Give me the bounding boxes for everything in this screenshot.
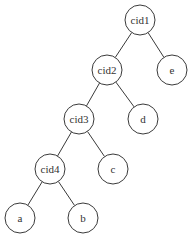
tree-node-e: e [157,55,187,85]
edge-cid2-cid3 [86,83,99,106]
node-label: cid4 [41,163,60,175]
tree-node-d: d [128,104,158,134]
tree-node-cid2: cid2 [92,55,122,85]
node-label: d [140,113,146,125]
edge-cid4-a [28,182,42,205]
tree-node-a: a [5,203,35,233]
node-label: cid1 [131,14,150,26]
tree-node-b: b [68,203,98,233]
edge-cid1-cid2 [115,33,131,58]
tree-node-c: c [98,154,128,184]
node-label: c [111,163,116,175]
node-label: cid2 [98,64,117,76]
node-label: cid3 [70,113,89,125]
edge-cid2-d [116,82,134,107]
node-label: b [80,212,86,224]
tree-node-cid4: cid4 [35,154,65,184]
edge-cid1-e [148,33,164,58]
node-label: a [18,212,23,224]
tree-node-cid1: cid1 [125,5,155,35]
edge-cid3-cid4 [58,132,72,156]
edge-cid3-c [87,131,104,156]
edge-cid4-b [58,181,74,205]
tree-node-cid3: cid3 [64,104,94,134]
tree-diagram: cid1cid2ecid3dcid4cab [0,0,191,244]
node-label: e [170,64,175,76]
